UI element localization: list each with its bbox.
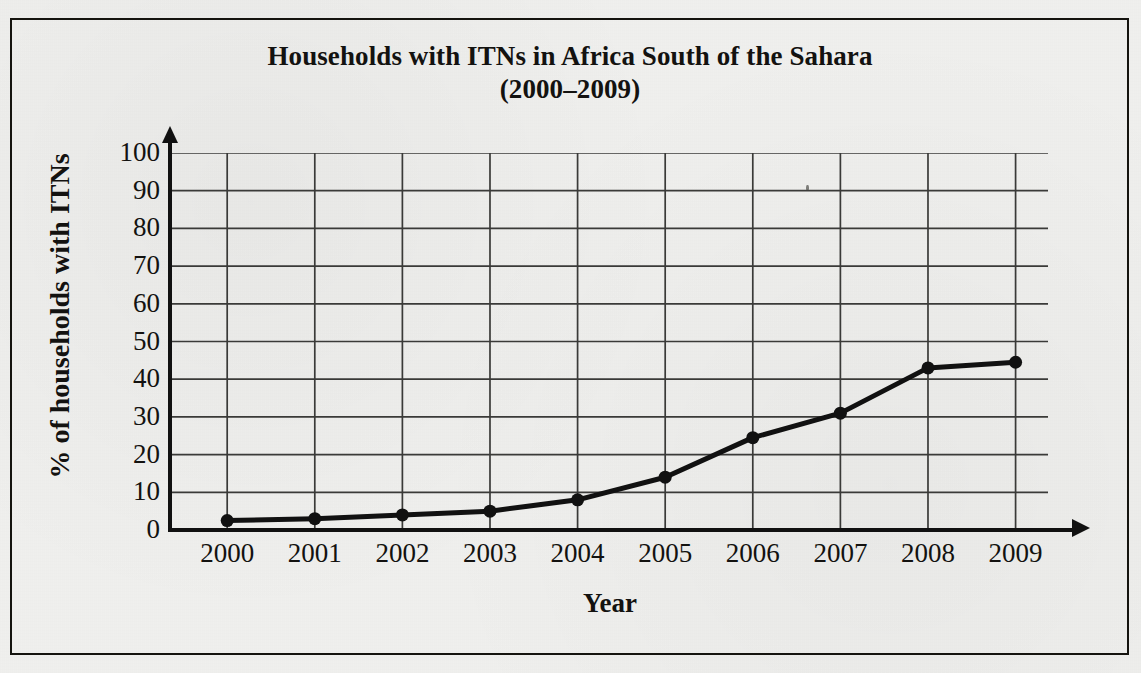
chart-title: Households with ITNs in Africa South of …: [120, 40, 1020, 106]
y-tick-label: 30: [92, 403, 160, 430]
y-tick-label: 90: [92, 177, 160, 204]
y-tick-label: 100: [92, 139, 160, 166]
chart-title-line-2: (2000–2009): [120, 73, 1020, 106]
y-axis-tick-labels: 0102030405060708090100: [92, 0, 160, 673]
x-tick-label: 2009: [961, 540, 1071, 567]
y-tick-label: 0: [92, 516, 160, 543]
x-axis-line: [170, 528, 1075, 532]
data-series-line: [172, 153, 1048, 530]
y-tick-label: 80: [92, 214, 160, 241]
y-tick-label: 50: [92, 328, 160, 355]
y-tick-label: 40: [92, 365, 160, 392]
y-tick-label: 60: [92, 290, 160, 317]
y-tick-label: 10: [92, 478, 160, 505]
y-tick-label: 20: [92, 441, 160, 468]
figure-page: Households with ITNs in Africa South of …: [0, 0, 1141, 673]
y-tick-label: 70: [92, 252, 160, 279]
chart-title-line-1: Households with ITNs in Africa South of …: [267, 41, 872, 71]
x-axis-title: Year: [170, 588, 1050, 619]
y-axis-arrow-icon: [162, 126, 178, 143]
plot-area: [172, 153, 1048, 530]
x-axis-arrow-icon: [1072, 519, 1090, 537]
y-axis-title: % of households with ITNs: [44, 106, 76, 526]
